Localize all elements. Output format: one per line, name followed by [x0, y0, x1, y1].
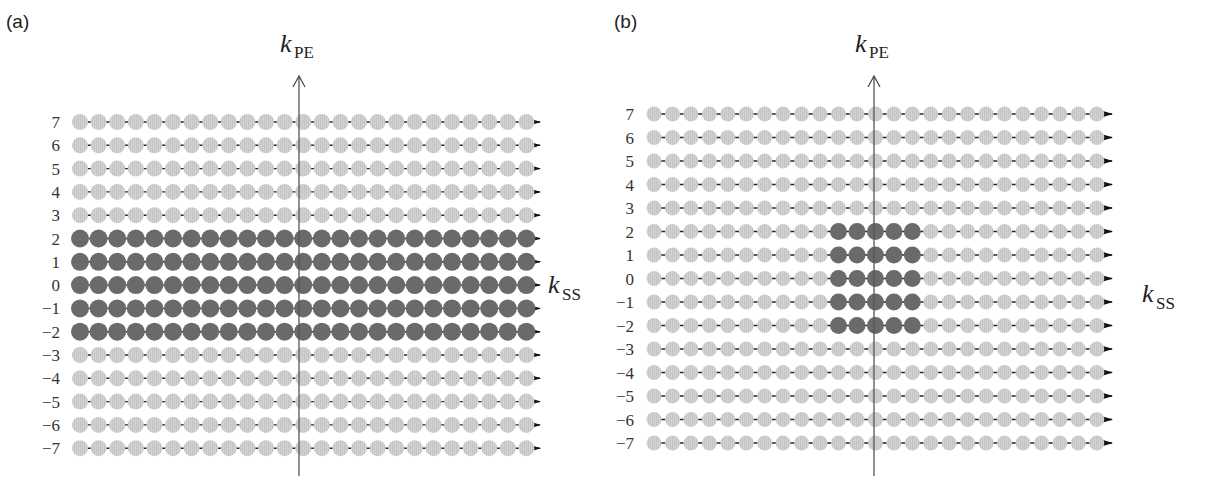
unsampled-point: [463, 370, 479, 386]
unsampled-point: [202, 440, 218, 456]
sampled-point: [145, 323, 163, 341]
unsampled-point: [277, 417, 293, 433]
unsampled-point: [960, 224, 975, 239]
unsampled-point: [794, 107, 809, 122]
unsampled-point: [665, 412, 680, 427]
row-label: −6: [616, 411, 634, 430]
unsampled-point: [388, 114, 404, 130]
unsampled-point: [277, 347, 293, 363]
unsampled-point: [850, 365, 865, 380]
sampled-point: [127, 276, 145, 294]
unsampled-point: [720, 177, 735, 192]
unsampled-point: [72, 184, 88, 200]
unsampled-point: [370, 114, 386, 130]
unsampled-point: [702, 436, 717, 451]
unsampled-point: [258, 137, 274, 153]
unsampled-point: [184, 207, 200, 223]
unsampled-point: [444, 394, 460, 410]
sampled-point: [369, 230, 387, 248]
unsampled-point: [757, 130, 772, 145]
unsampled-point: [425, 184, 441, 200]
unsampled-point: [683, 295, 698, 310]
sampled-point: [480, 299, 498, 317]
unsampled-point: [647, 248, 662, 263]
sampled-point: [257, 299, 275, 317]
unsampled-point: [794, 342, 809, 357]
unsampled-point: [518, 370, 534, 386]
unsampled-point: [444, 161, 460, 177]
unsampled-point: [757, 412, 772, 427]
unsampled-point: [942, 248, 957, 263]
kspace-row: [647, 247, 1113, 264]
unsampled-point: [647, 389, 662, 404]
sampled-point: [331, 299, 349, 317]
unsampled-point: [776, 365, 791, 380]
unsampled-point: [960, 295, 975, 310]
unsampled-point: [351, 161, 367, 177]
unsampled-point: [979, 107, 994, 122]
unsampled-point: [463, 184, 479, 200]
unsampled-point: [500, 161, 516, 177]
unsampled-point: [314, 114, 330, 130]
unsampled-point: [831, 365, 846, 380]
sampled-point: [499, 230, 517, 248]
unsampled-point: [146, 394, 162, 410]
sampled-point: [830, 223, 847, 240]
unsampled-point: [665, 436, 680, 451]
sampled-point: [517, 253, 535, 271]
unsampled-point: [683, 412, 698, 427]
unsampled-point: [868, 342, 883, 357]
unsampled-point: [905, 201, 920, 216]
sampled-point: [71, 276, 89, 294]
unsampled-point: [258, 114, 274, 130]
sampled-point: [443, 299, 461, 317]
sampled-point: [331, 230, 349, 248]
unsampled-point: [128, 207, 144, 223]
unsampled-point: [314, 394, 330, 410]
sampled-point: [480, 323, 498, 341]
unsampled-point: [165, 417, 181, 433]
unsampled-point: [739, 201, 754, 216]
unsampled-point: [942, 177, 957, 192]
unsampled-point: [923, 130, 938, 145]
unsampled-point: [794, 154, 809, 169]
unsampled-point: [407, 161, 423, 177]
sampled-point: [830, 247, 847, 264]
unsampled-point: [91, 394, 107, 410]
sampled-point: [462, 230, 480, 248]
unsampled-point: [831, 201, 846, 216]
unsampled-point: [868, 389, 883, 404]
unsampled-point: [500, 347, 516, 363]
unsampled-point: [683, 365, 698, 380]
kspace-row: [647, 389, 1113, 404]
unsampled-point: [1071, 130, 1086, 145]
unsampled-point: [202, 207, 218, 223]
unsampled-point: [997, 130, 1012, 145]
unsampled-point: [739, 177, 754, 192]
sampled-point: [331, 276, 349, 294]
unsampled-point: [997, 342, 1012, 357]
unsampled-point: [702, 224, 717, 239]
kspace-row: [647, 223, 1113, 240]
unsampled-point: [1016, 412, 1031, 427]
unsampled-point: [332, 184, 348, 200]
row-label: 3: [52, 206, 61, 225]
unsampled-point: [463, 440, 479, 456]
unsampled-point: [702, 412, 717, 427]
unsampled-point: [202, 137, 218, 153]
kspace-row: [72, 417, 540, 433]
sampled-point: [276, 230, 294, 248]
unsampled-point: [1016, 154, 1031, 169]
unsampled-point: [518, 114, 534, 130]
unsampled-point: [739, 295, 754, 310]
sampled-point: [71, 323, 89, 341]
unsampled-point: [923, 389, 938, 404]
sampled-point: [387, 299, 405, 317]
unsampled-point: [351, 137, 367, 153]
sampled-point: [294, 299, 312, 317]
unsampled-point: [757, 224, 772, 239]
kspace-row: [72, 137, 540, 153]
kspace-row: [647, 270, 1113, 287]
unsampled-point: [794, 365, 809, 380]
unsampled-point: [351, 347, 367, 363]
